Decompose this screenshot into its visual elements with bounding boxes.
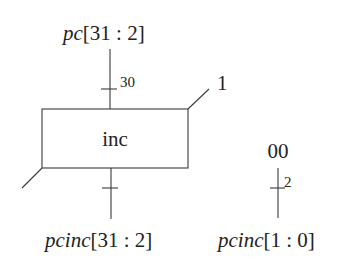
constant-bus-width-label: 2 <box>284 174 292 190</box>
carry-out-wire <box>22 168 42 188</box>
carry-in-wire <box>188 89 209 109</box>
inc-block-label: inc <box>102 127 128 151</box>
constant-label: 00 <box>268 139 289 163</box>
low-bits-signal-range: [1 : 0] <box>263 228 314 252</box>
output-signal-name: pcinc <box>43 228 91 252</box>
input-signal-label: pc[31 : 2] <box>61 21 145 45</box>
low-bits-signal-name: pcinc <box>216 228 264 252</box>
low-bits-signal-label: pcinc[1 : 0] <box>216 228 315 252</box>
input-signal-range: [31 : 2] <box>83 21 145 45</box>
inc-block-diagram: 30 pc[31 : 2] inc 1 pcinc[31 : 2] 00 2 p… <box>0 0 355 267</box>
input-bus-width-label: 30 <box>120 74 135 90</box>
carry-in-label: 1 <box>217 71 228 95</box>
output-signal-label: pcinc[31 : 2] <box>43 228 152 252</box>
output-signal-range: [31 : 2] <box>90 228 152 252</box>
input-signal-name: pc <box>61 21 84 45</box>
